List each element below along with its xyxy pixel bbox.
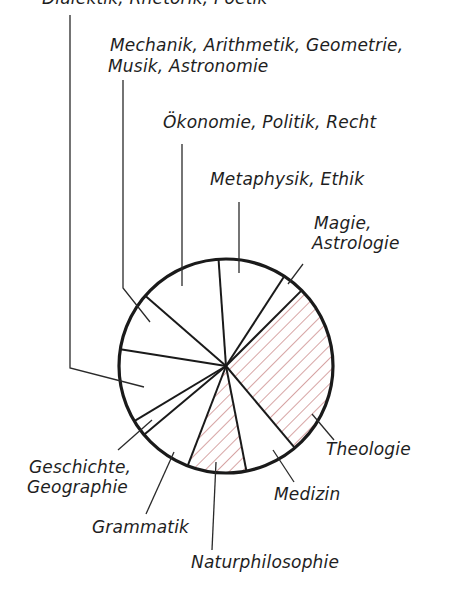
label-grammatik: Grammatik xyxy=(92,518,189,537)
slice-hatched xyxy=(188,366,247,473)
pie-diagram xyxy=(0,0,449,595)
leader-naturphilosophie xyxy=(212,462,216,550)
label-geschichte-2: Geographie xyxy=(27,478,128,497)
hatched-slices xyxy=(188,290,333,473)
label-metaphysik: Metaphysik, Ethik xyxy=(210,170,364,189)
slice-divider xyxy=(219,259,226,366)
label-geschichte-1: Geschichte, xyxy=(29,458,131,477)
label-medizin: Medizin xyxy=(274,485,340,504)
label-mechanik-1: Mechanik, Arithmetik, Geometrie, xyxy=(110,36,403,55)
leader-mechanik xyxy=(123,80,150,322)
label-top-clipped: Dialektik, Rhetorik, Poetik xyxy=(42,0,268,8)
label-naturphilosophie: Naturphilosophie xyxy=(191,553,339,572)
label-mechanik-2: Musik, Astronomie xyxy=(108,57,269,76)
label-magie-2: Astrologie xyxy=(312,234,400,253)
label-oekonomie: Ökonomie, Politik, Recht xyxy=(163,113,376,132)
leader-grammatik xyxy=(146,452,174,514)
label-theologie: Theologie xyxy=(326,440,411,459)
leader-magie xyxy=(288,264,303,284)
label-magie-1: Magie, xyxy=(314,214,372,233)
